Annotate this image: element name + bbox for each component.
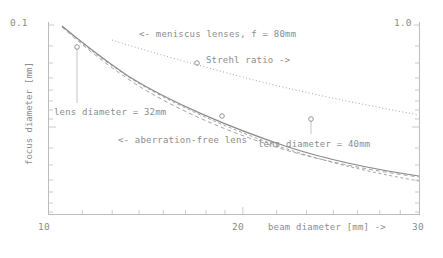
axis-frame [49, 22, 421, 215]
marker-lens-40mm [309, 117, 314, 122]
x-axis-left-label: 10 [38, 222, 50, 232]
lens-diameter-40mm-annotation: lens diameter = 40mm [258, 139, 370, 149]
y-axis-left-top-label: 0.1 [10, 18, 28, 28]
chart-figure: 0.1 1.0 10 20 30 beam diameter [mm] -> f… [0, 0, 443, 258]
y-axis-title: focus diameter [mm] [24, 62, 34, 165]
x-axis-right-label: 30 [412, 222, 424, 232]
marker-aberration-free [220, 114, 225, 119]
marker-lens-32mm [75, 45, 80, 50]
x-axis-ticks [49, 207, 420, 215]
y-axis-right-ticks [412, 25, 420, 212]
series-meniscus-32mm [62, 26, 419, 181]
x-axis-title: beam diameter [mm] -> [268, 222, 386, 232]
series-meniscus-40mm [62, 27, 419, 177]
meniscus-lenses-annotation: <- meniscus lenses, f = 80mm [139, 29, 296, 39]
series-strehl-ratio [112, 40, 419, 115]
aberration-free-lens-annotation: <- aberration-free lens [118, 135, 247, 145]
lens-diameter-32mm-annotation: lens diameter = 32mm [54, 107, 166, 117]
y-axis-right-top-label: 1.0 [394, 18, 412, 28]
series-aberration-free-lens [62, 26, 419, 176]
strehl-ratio-annotation: Strehl ratio -> [206, 55, 290, 65]
x-axis-mid-label: 20 [232, 222, 244, 232]
y-axis-left-ticks [49, 25, 57, 212]
